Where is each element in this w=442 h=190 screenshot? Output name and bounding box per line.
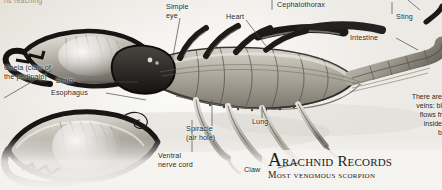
records-heading-dropcap: A xyxy=(268,149,282,170)
label-spiracle: Spiracle (air hole) xyxy=(186,125,232,142)
label-lung: Lung xyxy=(252,118,268,127)
label-brain: Brain xyxy=(56,77,73,86)
label-heart: Heart xyxy=(226,13,244,22)
label-esophagus: Esophagus xyxy=(51,89,88,98)
label-cephalothorax: Cephalothorax xyxy=(277,1,325,10)
arachnid-records-block: Arachnid Records Most venomous scorpion xyxy=(268,152,392,181)
sidenote-circulatory: There are veins: bl flows fr inside b xyxy=(388,92,442,137)
label-claw: Claw xyxy=(244,166,260,175)
label-sting: Sting xyxy=(396,13,413,22)
records-subheading: Most venomous scorpion xyxy=(268,170,392,181)
label-ventral-nerve-cord: Ventral nerve cord xyxy=(158,152,208,169)
label-simple-eye: Simple eye xyxy=(166,3,189,20)
top-cropped-caption: ns reaching xyxy=(4,0,42,4)
label-intestine: Intestine xyxy=(350,34,378,43)
records-heading-rest: rachnid Records xyxy=(282,153,392,169)
scorpion-anatomy-diagram: ns reaching Chela (claw of the pedipalp)… xyxy=(0,0,442,190)
records-heading: Arachnid Records xyxy=(268,152,392,169)
